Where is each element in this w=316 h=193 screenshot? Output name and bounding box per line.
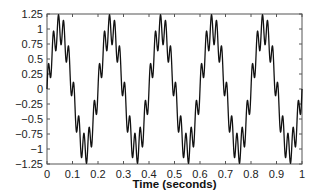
x-axis-title: Time (seconds) — [132, 178, 216, 190]
y-tick-label: 0.75 — [22, 38, 43, 50]
y-tick-label: −0.5 — [21, 113, 43, 125]
y-tick-label: −1.25 — [15, 158, 43, 170]
x-tick-label: 1 — [299, 168, 305, 180]
x-tick-label: 0.8 — [243, 168, 258, 180]
x-tick-label: 0.1 — [65, 168, 80, 180]
line-chart: 1.2510.750.50.250−0.25−0.5−0.75−1−1.25 0… — [0, 0, 316, 193]
x-tick-label: 0.2 — [90, 168, 105, 180]
y-tick-label: −0.75 — [15, 128, 43, 140]
x-tick-label: 0 — [44, 168, 50, 180]
x-tick-label: 0.3 — [116, 168, 131, 180]
x-tick-label: 0.9 — [269, 168, 284, 180]
y-tick-label: 0 — [37, 83, 43, 95]
y-tick-label: 0.25 — [22, 68, 43, 80]
y-tick-label: 1 — [37, 23, 43, 35]
y-tick-label: −1 — [30, 143, 43, 155]
y-tick-label: 0.5 — [28, 53, 43, 65]
y-tick-label: −0.25 — [15, 98, 43, 110]
y-tick-label: 1.25 — [22, 8, 43, 20]
x-tick-label: 0.7 — [218, 168, 233, 180]
